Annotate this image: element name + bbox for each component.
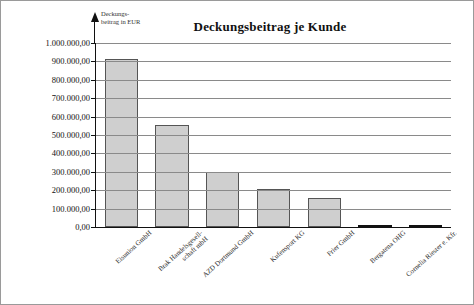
y-axis-title-line2: beitrag in EUR: [101, 18, 163, 26]
gridline: [96, 80, 451, 81]
x-axis-category-label-line: Kufensport KG: [268, 229, 306, 264]
y-axis-tick: [91, 98, 96, 99]
x-axis-line: [95, 227, 451, 228]
y-axis-tick-label: 500.000,00: [4, 130, 90, 140]
y-axis-title-line1: Deckungs-: [101, 10, 163, 18]
y-axis-title: Deckungs- beitrag in EUR: [101, 10, 163, 25]
x-axis-category-label-line: Cornelia Riester e. Kfr.: [404, 229, 458, 279]
x-axis-category-label: Frier GmbH: [326, 229, 357, 258]
x-axis-category-label: Kufensport KG: [268, 229, 306, 264]
x-axis-category-label-line: Eisunion GmbH: [114, 229, 153, 266]
gridline: [96, 190, 451, 191]
gridline: [96, 43, 451, 44]
y-axis-tick: [91, 117, 96, 118]
y-axis-tick-labels: 0,00100.000,00200.000,00300.000,00400.00…: [4, 43, 90, 227]
y-axis-stem: [94, 22, 95, 44]
bar: [308, 198, 341, 227]
y-axis-tick: [91, 190, 96, 191]
x-axis-category-label-line: Frier GmbH: [326, 229, 357, 258]
y-axis-tick: [91, 172, 96, 173]
y-axis-tick: [91, 43, 96, 44]
x-axis-category-labels: Eisunion GmbHBrak Handelsgesell-schaft m…: [95, 229, 455, 304]
gridline: [96, 117, 451, 118]
y-axis-tick-label: 700.000,00: [4, 93, 90, 103]
x-axis-category-label-line: AZD Dortmund GmbH: [201, 229, 255, 279]
x-axis-category-label: Cornelia Riester e. Kfr.: [404, 229, 458, 279]
bar: [105, 59, 138, 227]
y-axis-tick-label: 100.000,00: [4, 204, 90, 214]
y-axis-tick-label: 800.000,00: [4, 75, 90, 85]
gridline: [96, 209, 451, 210]
y-axis-tick-label: 600.000,00: [4, 112, 90, 122]
gridline: [96, 172, 451, 173]
x-axis-category-label: Bergatena OHG: [368, 229, 407, 265]
x-axis-category-label: AZD Dortmund GmbH: [201, 229, 255, 279]
gridline: [96, 98, 451, 99]
x-axis-category-label-line: Bergatena OHG: [368, 229, 407, 265]
y-axis-tick-label: 200.000,00: [4, 185, 90, 195]
y-axis-tick-label: 900.000,00: [4, 56, 90, 66]
y-axis-tick-label: 1.000.000,00: [4, 38, 90, 48]
x-axis-category-label: Eisunion GmbH: [114, 229, 153, 266]
y-axis-tick-label: 300.000,00: [4, 167, 90, 177]
y-axis-arrow-icon: [91, 12, 99, 22]
gridline: [96, 61, 451, 62]
y-axis-tick: [91, 61, 96, 62]
plot-area: [95, 43, 451, 227]
y-axis-tick-label: 0,00: [4, 222, 90, 232]
bar: [155, 125, 188, 227]
y-axis-tick: [91, 80, 96, 81]
bar: [206, 172, 239, 227]
y-axis-tick: [91, 209, 96, 210]
y-axis-tick: [91, 135, 96, 136]
gridline: [96, 153, 451, 154]
y-axis-tick-label: 400.000,00: [4, 148, 90, 158]
gridline: [96, 135, 451, 136]
y-axis-tick: [91, 153, 96, 154]
chart-title: Deckungsbeitrag je Kunde: [150, 19, 390, 35]
